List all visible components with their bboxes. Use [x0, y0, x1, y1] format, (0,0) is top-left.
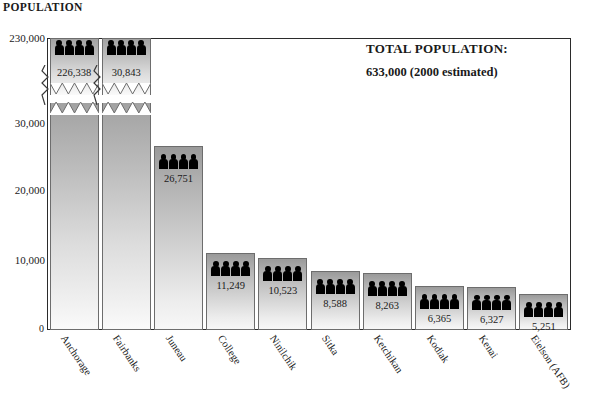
person-icon	[398, 281, 407, 296]
person-icon	[179, 154, 188, 169]
person-icon	[472, 295, 481, 310]
person-icon	[65, 40, 74, 55]
y-tick-label: 30,000	[15, 117, 45, 129]
person-icon	[378, 281, 387, 296]
person-icon	[524, 302, 533, 317]
bar-value-label: 8,588	[311, 298, 360, 309]
x-axis-tick-labels: AnchorageFairbanksJuneauCollegeNinilchik…	[48, 331, 570, 393]
person-icon	[117, 40, 126, 55]
axis-break-marker	[41, 65, 50, 105]
bar-lower-segment	[50, 103, 99, 330]
person-icon	[336, 279, 345, 294]
bar-group[interactable]: 8,263	[363, 39, 412, 330]
people-group-icon	[154, 154, 203, 169]
x-tick-label: Ninilchik	[268, 333, 299, 372]
x-tick-label: Kenai	[477, 333, 500, 360]
bar-group[interactable]: 6,327	[467, 39, 516, 330]
bar-value-label: 11,249	[206, 280, 255, 291]
x-tick-label: Anchorage	[59, 333, 94, 377]
person-icon	[346, 279, 355, 294]
bar-group[interactable]: 30,843	[102, 39, 151, 330]
bar-value-label: 226,338	[50, 67, 99, 78]
people-group-icon	[50, 40, 99, 55]
x-tick-label: Eielson (AFB)	[529, 333, 573, 390]
bar-group[interactable]: 226,338	[50, 39, 99, 330]
bar-value-label: 8,263	[363, 300, 412, 311]
person-icon	[55, 40, 64, 55]
population-bar-chart: POPULATION 230,00030,00020,00010,0000 22…	[0, 0, 593, 393]
person-icon	[241, 261, 250, 276]
total-population-panel: TOTAL POPULATION: 633,000 (2000 estimate…	[366, 41, 566, 80]
bar-value-label: 26,751	[154, 173, 203, 184]
person-icon	[231, 261, 240, 276]
person-icon	[137, 40, 146, 55]
bars-container: 226,33830,84326,75111,24910,5238,5888,26…	[48, 39, 570, 330]
x-tick-label: Ketchikan	[372, 333, 405, 375]
total-population-value: 633,000 (2000 estimated)	[366, 65, 566, 80]
y-tick-label: 0	[39, 323, 44, 334]
person-icon	[420, 294, 429, 309]
x-tick-label: Fairbanks	[111, 333, 143, 373]
person-icon	[159, 154, 168, 169]
x-tick-label: Sitka	[320, 333, 341, 357]
bar-value-label: 6,327	[467, 314, 516, 325]
person-icon	[534, 302, 543, 317]
person-icon	[169, 154, 178, 169]
person-icon	[316, 279, 325, 294]
person-icon	[189, 154, 198, 169]
people-group-icon	[363, 281, 412, 296]
person-icon	[368, 281, 377, 296]
person-icon	[221, 261, 230, 276]
bar-group[interactable]: 11,249	[206, 39, 255, 330]
people-group-icon	[415, 294, 464, 309]
bar-group[interactable]: 5,251	[519, 39, 568, 330]
total-population-label: TOTAL POPULATION:	[366, 41, 566, 57]
people-group-icon	[258, 266, 307, 281]
person-icon	[492, 295, 501, 310]
bar-lower-segment	[102, 103, 151, 330]
person-icon	[107, 40, 116, 55]
x-tick-label: College	[216, 333, 243, 366]
person-icon	[544, 302, 553, 317]
person-icon	[263, 266, 272, 281]
person-icon	[388, 281, 397, 296]
person-icon	[273, 266, 282, 281]
person-icon	[211, 261, 220, 276]
bar-group[interactable]: 26,751	[154, 39, 203, 330]
person-icon	[75, 40, 84, 55]
bar-group[interactable]: 10,523	[258, 39, 307, 330]
person-icon	[430, 294, 439, 309]
y-axis-tick-labels: 230,00030,00020,00010,0000	[0, 0, 45, 393]
person-icon	[326, 279, 335, 294]
y-tick-label: 20,000	[15, 184, 45, 196]
person-icon	[127, 40, 136, 55]
person-icon	[85, 40, 94, 55]
x-tick-label: Juneau	[163, 333, 188, 363]
bar-value-label: 10,523	[258, 285, 307, 296]
people-group-icon	[311, 279, 360, 294]
bar-value-label: 6,365	[415, 313, 464, 324]
person-icon	[293, 266, 302, 281]
y-tick-label: 230,000	[9, 32, 45, 44]
person-icon	[283, 266, 292, 281]
people-group-icon	[519, 302, 568, 317]
people-group-icon	[102, 40, 151, 55]
people-group-icon	[467, 295, 516, 310]
x-tick-label: Kodiak	[424, 333, 450, 365]
person-icon	[502, 295, 511, 310]
person-icon	[482, 295, 491, 310]
bar-group[interactable]: 6,365	[415, 39, 464, 330]
bar-value-label: 30,843	[102, 67, 151, 78]
person-icon	[440, 294, 449, 309]
axis-break-marker	[93, 65, 102, 105]
person-icon	[450, 294, 459, 309]
person-icon	[554, 302, 563, 317]
bar-group[interactable]: 8,588	[311, 39, 360, 330]
y-tick-label: 10,000	[15, 254, 45, 266]
people-group-icon	[206, 261, 255, 276]
